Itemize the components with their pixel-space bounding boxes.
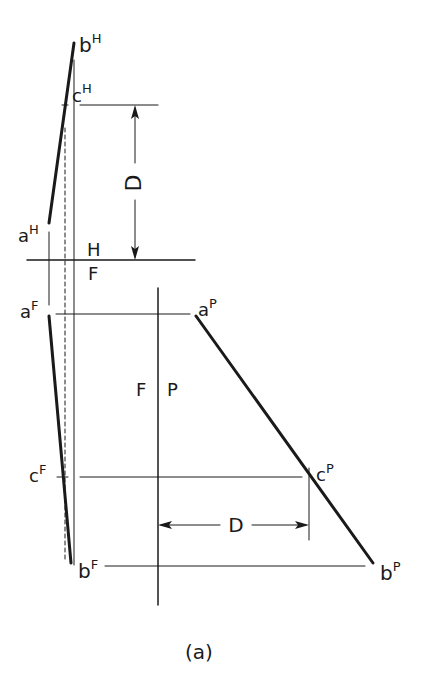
dimension-label-D-horizontal: D (228, 513, 243, 537)
dimension-label-D-vertical: D (121, 175, 146, 192)
label-bF: bF (78, 557, 98, 583)
folding-label-P-right: P (167, 379, 178, 400)
line-ab-front-view (49, 316, 71, 563)
label-cP: cP (316, 461, 334, 485)
label-bH: bH (79, 31, 101, 57)
folding-label-F-left: F (136, 379, 146, 400)
label-cH: cH (72, 81, 92, 106)
label-aF: aF (20, 298, 39, 322)
line-ab-profile-view (196, 316, 373, 563)
folding-label-F-below-H: F (88, 263, 98, 284)
line-ab-top-view (49, 43, 74, 223)
descriptive-geometry-diagram: bH cH aH aF cF bF aP cP bP H F F P D D (… (0, 0, 428, 677)
label-aH: aH (18, 222, 39, 246)
label-aP: aP (198, 296, 217, 320)
label-cF: cF (29, 462, 46, 486)
folding-label-H: H (87, 239, 101, 260)
label-bP: bP (380, 559, 401, 585)
figure-caption: (a) (185, 640, 213, 664)
